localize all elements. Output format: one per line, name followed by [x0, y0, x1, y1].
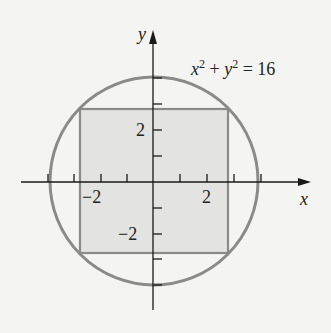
y-tick-label-2: 2	[136, 120, 145, 140]
x-tick-label-2: 2	[202, 187, 211, 207]
diagram-canvas: y x −2 2 2 −2 x2 + y2 = 16	[0, 0, 331, 333]
y-axis-arrow-icon	[149, 30, 157, 44]
y-tick-label-neg2: −2	[118, 224, 137, 244]
x-tick-label-neg2: −2	[82, 187, 101, 207]
x-axis-arrow-icon	[298, 178, 311, 186]
eq-x: x	[190, 59, 199, 79]
eq-y: y	[222, 59, 232, 79]
x-axis-label: x	[299, 189, 308, 209]
circle-equation: x2 + y2 = 16	[190, 57, 275, 79]
y-axis-label: y	[136, 24, 146, 44]
eq-rest: = 16	[238, 59, 275, 79]
eq-plus: +	[205, 59, 224, 79]
